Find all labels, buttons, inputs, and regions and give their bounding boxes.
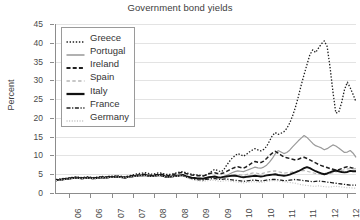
y-axis-tick-mark: [50, 118, 54, 119]
y-axis-tick-mark: [50, 155, 54, 156]
x-axis-tick-label: 12: [330, 209, 340, 218]
legend-label: Italy: [90, 86, 107, 96]
plot-area: GreecePortugalIrelandSpainItalyFranceGer…: [55, 24, 356, 194]
x-axis-tick-label: 10: [244, 209, 254, 218]
legend-swatch-france-icon: [66, 99, 85, 109]
y-axis-tick-label: 5: [38, 169, 43, 179]
series-line-portugal: [56, 136, 356, 181]
legend-swatch-portugal-icon: [66, 46, 85, 56]
x-axis-tick-label: 08: [180, 209, 190, 218]
chart-container: Government bond yields Percent 051015202…: [0, 0, 360, 220]
y-axis-tick-mark: [50, 62, 54, 63]
y-axis-tick-label: 15: [34, 132, 43, 142]
legend-swatch-ireland-icon: [66, 59, 85, 69]
legend-item-portugal[interactable]: Portugal: [66, 44, 129, 57]
y-axis-tick-label: 30: [34, 75, 43, 85]
y-axis-tick-mark: [50, 80, 54, 81]
x-axis-tick-label: 11: [287, 209, 297, 218]
x-axis-tick-label: 09: [201, 209, 211, 218]
x-axis-tick-label: 06: [73, 209, 83, 218]
y-axis-tick-label: 20: [34, 113, 43, 123]
legend-label: Germany: [90, 112, 129, 122]
legend-label: Portugal: [90, 46, 125, 56]
legend-swatch-germany-icon: [66, 112, 85, 122]
legend-label: Greece: [90, 33, 121, 43]
x-axis-tick-label: 08: [158, 209, 168, 218]
y-axis-tick-labels: 051015202530354045: [0, 24, 50, 193]
y-axis-tick-mark: [50, 99, 54, 100]
legend-item-ireland[interactable]: Ireland: [66, 57, 129, 70]
legend-item-greece[interactable]: Greece: [66, 31, 129, 44]
y-axis-tick-mark: [50, 137, 54, 138]
y-axis-tick-mark: [50, 43, 54, 44]
legend-item-spain[interactable]: Spain: [66, 71, 129, 84]
y-axis-tick-mark: [50, 174, 54, 175]
y-axis-tick-label: 25: [34, 94, 43, 104]
legend-item-germany[interactable]: Germany: [66, 110, 129, 123]
chart-title: Government bond yields: [0, 2, 360, 13]
y-axis-tick-mark: [50, 193, 54, 194]
x-axis-tick-label: 11: [308, 209, 318, 218]
y-axis-tick-label: 40: [34, 38, 43, 48]
legend-item-italy[interactable]: Italy: [66, 84, 129, 97]
legend-label: France: [90, 99, 120, 109]
x-axis-tick-label: 12: [351, 209, 360, 218]
y-axis-tick-label: 10: [34, 150, 43, 160]
y-axis-tick-mark: [50, 24, 54, 25]
x-axis-tick-label: 07: [137, 209, 147, 218]
y-axis-tick-label: 0: [38, 188, 43, 198]
legend-swatch-greece-icon: [66, 33, 85, 43]
x-axis-tick-label: 10: [266, 209, 276, 218]
legend-label: Ireland: [90, 59, 119, 69]
legend-swatch-spain-icon: [66, 72, 85, 82]
legend-item-france[interactable]: France: [66, 97, 129, 110]
legend: GreecePortugalIrelandSpainItalyFranceGer…: [61, 27, 135, 127]
x-axis-tick-label: 06: [94, 209, 104, 218]
series-line-ireland: [56, 151, 356, 180]
x-axis-tick-label: 07: [116, 209, 126, 218]
legend-label: Spain: [90, 72, 114, 82]
x-axis-tick-labels: 0606070708080909101011111212: [55, 198, 355, 220]
x-axis-tick-label: 09: [223, 209, 233, 218]
y-axis-tick-label: 45: [34, 19, 43, 29]
legend-swatch-italy-icon: [66, 85, 85, 95]
y-axis-tick-label: 35: [34, 57, 43, 67]
